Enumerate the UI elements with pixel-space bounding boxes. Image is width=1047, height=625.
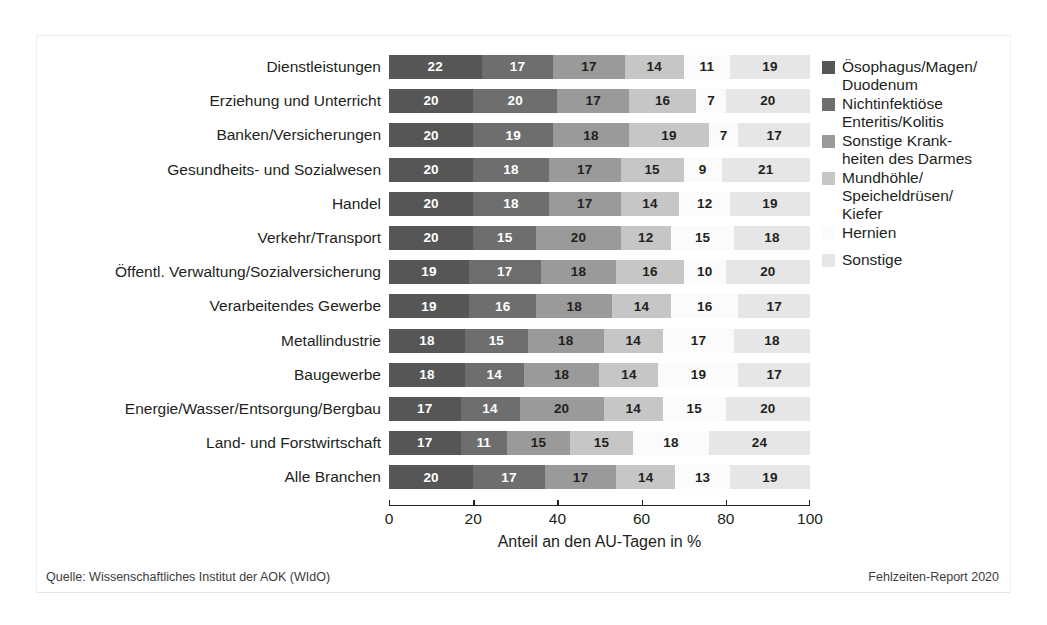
bar-segment-value: 12: [697, 197, 712, 211]
bar-segment-value: 12: [638, 231, 653, 245]
legend-item[interactable]: Hernien: [822, 224, 1037, 242]
bar-segment: 19: [730, 55, 810, 79]
bar-segment: 20: [389, 158, 473, 182]
bar-segment: 18: [389, 363, 465, 387]
bar-segment: 14: [461, 397, 520, 421]
category-label: Handel: [1, 196, 381, 212]
bar-segment: 7: [696, 89, 725, 113]
category-axis-labels: DienstleistungenErziehung und Unterricht…: [0, 55, 381, 505]
bar-segment-value: 19: [762, 471, 777, 485]
bar-segment-value: 19: [421, 265, 436, 279]
bar-segment: 19: [629, 123, 709, 147]
bar-segment-value: 7: [720, 129, 728, 143]
legend: Ösophagus/Magen/ DuodenumNichtinfektiöse…: [822, 58, 1037, 270]
bar-segment-value: 14: [625, 334, 640, 348]
bar-segment: 16: [616, 260, 683, 284]
bar-segment-value: 14: [625, 402, 640, 416]
bar-segment-value: 17: [766, 129, 781, 143]
bar-segment: 21: [722, 158, 810, 182]
bar-segment-value: 15: [497, 231, 512, 245]
legend-label: Sonstige: [842, 251, 902, 269]
bar-segment: 14: [604, 329, 663, 353]
bar-segment: 20: [389, 226, 473, 250]
axis-tick: [642, 500, 643, 506]
stacked-bar-row: 201817141219: [389, 192, 810, 216]
bar-segment-value: 17: [501, 471, 516, 485]
stacked-bar-row: 221717141119: [389, 55, 810, 79]
bar-segment: 14: [604, 397, 663, 421]
bar-segment: 17: [389, 431, 461, 455]
bar-segment: 9: [684, 158, 722, 182]
bar-segment: 24: [709, 431, 810, 455]
bar-segment-value: 19: [661, 129, 676, 143]
stacked-bar-row: 201520121518: [389, 226, 810, 250]
bar-segment: 20: [389, 465, 473, 489]
legend-label: Hernien: [842, 224, 896, 242]
bar-segment-value: 10: [697, 265, 712, 279]
bar-segment-value: 15: [489, 334, 504, 348]
bar-segment-value: 7: [707, 94, 715, 108]
bar-segment-value: 18: [419, 334, 434, 348]
bar-segment-value: 20: [423, 94, 438, 108]
bar-segment-value: 20: [423, 231, 438, 245]
bar-segment: 19: [389, 260, 469, 284]
bar-segment: 19: [730, 192, 810, 216]
bar-segment: 10: [684, 260, 726, 284]
bar-segment-value: 18: [764, 231, 779, 245]
bar-segment-value: 18: [554, 368, 569, 382]
bar-segment-value: 18: [419, 368, 434, 382]
stacked-bar-row: 181518141718: [389, 329, 810, 353]
legend-item[interactable]: Ösophagus/Magen/ Duodenum: [822, 58, 1037, 94]
axis-tick-label: 0: [385, 511, 394, 527]
bar-segment: 11: [461, 431, 507, 455]
bar-segment-value: 20: [760, 94, 775, 108]
legend-label: Nichtinfektiöse Enteritis/Kolitis: [842, 95, 944, 131]
bar-segment: 14: [625, 55, 684, 79]
bar-segment-value: 16: [655, 94, 670, 108]
bar-segment: 15: [570, 431, 633, 455]
bar-segment-value: 9: [699, 163, 707, 177]
legend-item[interactable]: Sonstige Krank- heiten des Darmes: [822, 132, 1037, 168]
bar-segment: 17: [738, 363, 810, 387]
bar-segment: 17: [553, 55, 625, 79]
bar-segment: 20: [473, 89, 557, 113]
axis-tick-label: 80: [717, 511, 734, 527]
source-note: Quelle: Wissenschaftliches Institut der …: [46, 570, 330, 584]
bar-segment-value: 17: [577, 163, 592, 177]
bar-segment: 19: [658, 363, 738, 387]
bar-segment-value: 11: [699, 60, 714, 74]
bar-segment-value: 17: [510, 60, 525, 74]
bar-segment-value: 18: [583, 129, 598, 143]
bar-segment-value: 14: [638, 471, 653, 485]
bar-segment-value: 17: [497, 265, 512, 279]
bar-segment: 18: [528, 329, 604, 353]
bar-segment: 16: [629, 89, 696, 113]
bar-segment: 17: [557, 89, 629, 113]
bar-segment-value: 21: [758, 163, 773, 177]
bar-segment: 18: [734, 329, 810, 353]
bar-segment-value: 19: [691, 368, 706, 382]
bar-segment: 15: [465, 329, 528, 353]
bar-segment: 14: [465, 363, 524, 387]
stacked-bar-row: 191718161020: [389, 260, 810, 284]
bar-segment: 18: [541, 260, 617, 284]
frame-border-bottom: [36, 592, 1011, 593]
legend-item[interactable]: Nichtinfektiöse Enteritis/Kolitis: [822, 95, 1037, 131]
legend-item[interactable]: Sonstige: [822, 251, 1037, 269]
bar-segment: 20: [389, 89, 473, 113]
legend-item[interactable]: Mundhöhle/ Speicheldrüsen/ Kiefer: [822, 169, 1037, 223]
bar-segment-value: 20: [423, 197, 438, 211]
axis-line: [389, 505, 810, 506]
bar-segment: 20: [520, 397, 604, 421]
bar-segment: 14: [621, 192, 680, 216]
bar-segment-value: 20: [423, 163, 438, 177]
bar-segment: 16: [671, 294, 738, 318]
bar-segment-value: 17: [577, 197, 592, 211]
bar-segment-value: 18: [663, 436, 678, 450]
legend-swatch-icon: [822, 61, 835, 74]
legend-swatch-icon: [822, 172, 835, 185]
bar-segment: 11: [684, 55, 730, 79]
bar-segment: 17: [545, 465, 617, 489]
bar-segment-value: 14: [634, 300, 649, 314]
bar-segment-value: 17: [417, 402, 432, 416]
